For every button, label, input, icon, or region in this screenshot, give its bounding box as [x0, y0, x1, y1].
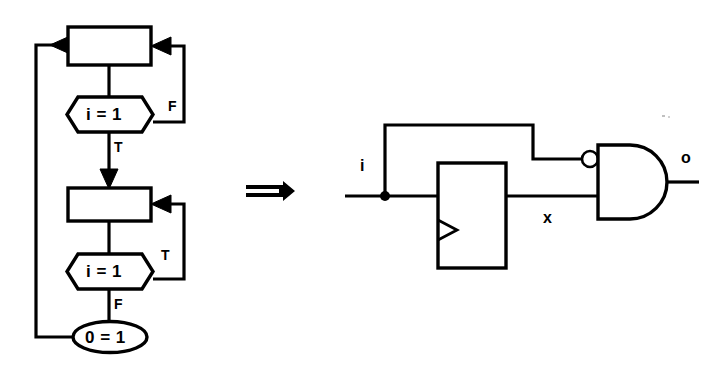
- scan-speck: [662, 115, 665, 117]
- circuit-input-label: i: [360, 158, 364, 174]
- decision-bottom-condition-label: i = 1: [86, 263, 122, 280]
- scan-speck: [668, 116, 670, 118]
- top-false-arrowhead: [151, 37, 171, 55]
- branch-label-bottom-false: F: [114, 297, 123, 311]
- process-box-bottom: [68, 188, 151, 221]
- junction-dot: [380, 191, 390, 201]
- terminal-label: 0 = 1: [85, 329, 126, 346]
- bottom-true-arrowhead: [151, 195, 171, 213]
- circuit-output-label: o: [681, 150, 691, 166]
- inversion-bubble-icon: [582, 151, 598, 167]
- branch-label-bottom-true: T: [161, 248, 170, 262]
- implication-arrow-icon: [246, 181, 295, 201]
- top-true-arrowhead: [100, 169, 118, 189]
- circuit-internal-signal-label: x: [543, 210, 552, 226]
- figure-canvas: [0, 0, 722, 371]
- branch-label-top-false: F: [168, 99, 177, 113]
- and-gate-body: [598, 145, 667, 219]
- figure-root: i = 1 F T i = 1 T F 0 = 1 i x o: [0, 0, 722, 371]
- branch-label-top-true: T: [114, 140, 123, 154]
- flip-flop-box: [438, 163, 506, 268]
- process-box-top: [68, 27, 151, 65]
- decision-top-condition-label: i = 1: [86, 106, 122, 123]
- wire-bottom-true-feedback: [153, 204, 184, 279]
